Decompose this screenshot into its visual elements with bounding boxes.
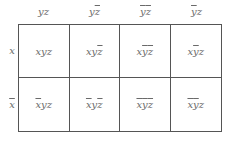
kmap-cell: xyz [171,25,222,78]
literal: z [97,99,102,110]
literal: z [146,6,151,17]
kmap-cell: xyz [70,25,121,78]
kmap-cell: xyz [70,78,121,131]
literal: z [148,46,153,57]
column-label-ybar-zbar: yz [120,6,171,18]
literal: x [9,45,15,56]
row-label-x: x [6,45,18,57]
literal: z [199,99,204,110]
literal: x [9,99,15,110]
literal: z [95,6,100,17]
kmap-cell: xyz [120,25,171,78]
literal: z [199,46,204,57]
column-label-ybar-z: yz [171,6,222,18]
literal: z [97,46,102,57]
literal: z [47,46,52,57]
column-label-yz: yz [18,6,69,18]
column-label-y-zbar: yz [69,6,120,18]
kmap-cell: xyz [120,78,171,131]
literal: z [148,99,153,110]
kmap-cell: xyz [19,25,70,78]
row-label-xbar: x [6,99,18,111]
kmap-grid: xyz xyz xyz xyz xyz xyz xyz xyz [18,24,222,132]
kmap-cell: xyz [19,78,70,131]
kmap-cell: xyz [171,78,222,131]
literal: z [197,6,202,17]
literal: z [44,6,49,17]
literal: z [47,99,52,110]
